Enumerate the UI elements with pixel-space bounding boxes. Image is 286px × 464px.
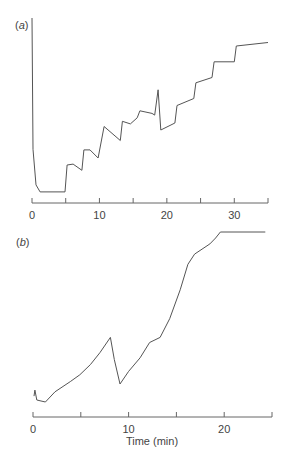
panel-b-label: (b) (16, 236, 29, 248)
panel-a-label: (a) (15, 19, 28, 31)
tick-label: 0 (29, 209, 35, 221)
figure: (a) 0102030 (b) 01020 Time (min) (0, 0, 286, 464)
panel-b: (b) 01020 Time (min) (16, 232, 272, 447)
tick-label: 20 (161, 209, 173, 221)
panel-a-trace (32, 18, 268, 192)
panel-a-x-axis: 0102030 (29, 198, 268, 221)
tick-label: 10 (93, 209, 105, 221)
panel-b-trace (34, 232, 265, 402)
tick-label: 10 (122, 423, 134, 435)
panel-b-x-axis: 01020 (30, 412, 272, 435)
tick-label: 0 (30, 423, 36, 435)
tick-label: 20 (218, 423, 230, 435)
panel-b-x-axis-title: Time (min) (126, 435, 178, 447)
panel-a: (a) 0102030 (15, 18, 268, 221)
tick-label: 30 (228, 209, 240, 221)
